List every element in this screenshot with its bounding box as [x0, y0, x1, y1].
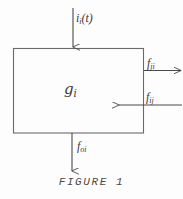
figure-caption: FIGURE 1 [0, 176, 183, 188]
system-block-label: gi [64, 82, 77, 99]
system-block-label-sub: i [74, 88, 77, 99]
incoming-flow-right-label-sub: ij [149, 96, 153, 105]
system-block-label-main: g [64, 80, 74, 98]
outgoing-flow-right-label-sub: ji [150, 62, 154, 71]
system-block-rect [14, 49, 144, 134]
input-signal-label-tail: (t) [81, 11, 92, 25]
incoming-flow-right-label: fij [146, 91, 154, 105]
figure-1-diagram: ii(t) gi fji fij foi FIGURE 1 [0, 0, 183, 199]
output-signal-label-sub: oi [80, 145, 86, 154]
diagram-canvas [0, 0, 183, 199]
output-signal-label: foi [77, 140, 86, 154]
input-signal-label: ii(t) [76, 12, 93, 26]
outgoing-flow-right-label: fji [147, 57, 155, 71]
